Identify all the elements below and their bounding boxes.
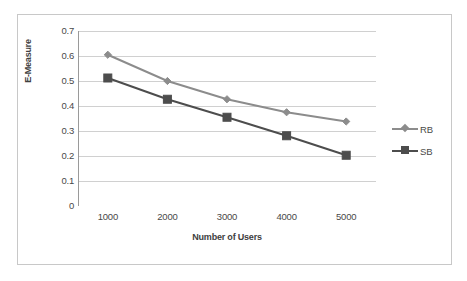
legend-label: RB bbox=[418, 124, 433, 135]
chart-canvas bbox=[78, 31, 376, 206]
y-axis-tick-labels: 00.10.20.30.40.50.60.7 bbox=[38, 31, 74, 206]
x-tick-label: 2000 bbox=[142, 211, 192, 222]
marker-square-sb bbox=[223, 113, 231, 121]
legend-diamond-icon bbox=[401, 124, 409, 132]
legend-item-sb[interactable]: SB bbox=[392, 140, 444, 162]
y-tick-label: 0.5 bbox=[40, 76, 74, 86]
y-tick-label: 0.7 bbox=[40, 26, 74, 36]
y-tick-label: 0.6 bbox=[40, 51, 74, 61]
chart-legend: RBSB bbox=[392, 118, 444, 162]
y-tick-label: 0.2 bbox=[40, 151, 74, 161]
x-tick-label: 3000 bbox=[202, 211, 252, 222]
marker-diamond-rb bbox=[223, 96, 230, 103]
plot-area bbox=[78, 31, 376, 206]
x-axis-title: Number of Users bbox=[78, 232, 376, 242]
marker-square-sb bbox=[163, 95, 171, 103]
marker-square-sb bbox=[104, 74, 112, 82]
y-tick-label: 0 bbox=[40, 201, 74, 211]
x-tick-label: 5000 bbox=[321, 211, 371, 222]
legend-square-icon bbox=[401, 146, 409, 154]
x-axis-tick-labels: 10002000300040005000 bbox=[78, 211, 376, 225]
y-tick-label: 0.3 bbox=[40, 126, 74, 136]
legend-marker-square-icon bbox=[392, 145, 418, 157]
marker-diamond-rb bbox=[283, 109, 290, 116]
series-lines bbox=[104, 51, 350, 159]
marker-square-sb bbox=[342, 151, 350, 159]
y-tick-label: 0.4 bbox=[40, 101, 74, 111]
x-tick-label: 4000 bbox=[262, 211, 312, 222]
legend-label: SB bbox=[418, 146, 432, 157]
marker-diamond-rb bbox=[104, 51, 111, 58]
y-tick-label: 0.1 bbox=[40, 176, 74, 186]
marker-diamond-rb bbox=[164, 77, 171, 84]
x-tick-label: 1000 bbox=[83, 211, 133, 222]
legend-item-rb[interactable]: RB bbox=[392, 118, 444, 140]
marker-square-sb bbox=[283, 132, 291, 140]
legend-marker-diamond-icon bbox=[392, 123, 418, 135]
series-line-rb bbox=[108, 55, 346, 122]
y-axis-title: E-Measure bbox=[23, 16, 37, 106]
marker-diamond-rb bbox=[343, 118, 350, 125]
